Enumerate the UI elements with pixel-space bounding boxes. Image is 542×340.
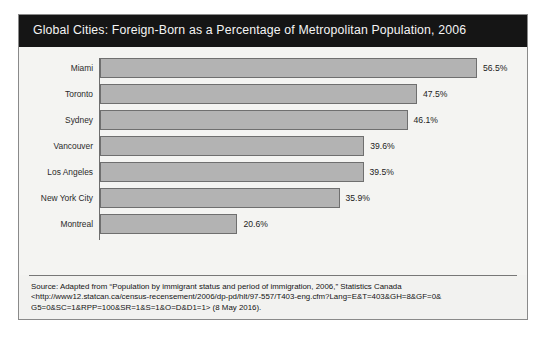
bar-value-label: 35.9% (346, 188, 370, 208)
bar-row: Toronto47.5% (100, 84, 517, 104)
bar-row: Vancouver39.6% (100, 136, 517, 156)
bar (100, 58, 477, 78)
bar (100, 214, 237, 234)
chart-area: Miami56.5%Toronto47.5%Sydney46.1%Vancouv… (19, 47, 527, 276)
bar (100, 188, 340, 208)
bar-value-label: 39.5% (370, 162, 394, 182)
bar-row: Montreal20.6% (100, 214, 517, 234)
source-line-1: Source: Adapted from “Population by immi… (31, 282, 515, 292)
bar-row: Los Angeles39.5% (100, 162, 517, 182)
bar-category-label: Sydney (65, 110, 93, 130)
source-note: Source: Adapted from “Population by immi… (19, 276, 527, 319)
bar-category-label: New York City (41, 188, 93, 208)
figure-panel: Global Cities: Foreign-Born as a Percent… (18, 14, 528, 320)
bar-value-label: 46.1% (414, 110, 438, 130)
bar-value-label: 47.5% (423, 84, 447, 104)
source-line-2: <http://www12.statcan.ca/census-recensem… (31, 292, 515, 302)
source-line-3: G5=0&SC=1&RPP=100&SR=1&S=1&O=D&D1=1> (8 … (31, 303, 515, 313)
bar-row: New York City35.9% (100, 188, 517, 208)
bar-category-label: Montreal (60, 214, 93, 234)
bar (100, 84, 417, 104)
bar-category-label: Vancouver (54, 136, 93, 156)
bar-row: Sydney46.1% (100, 110, 517, 130)
figure-title: Global Cities: Foreign-Born as a Percent… (33, 22, 513, 39)
bar-chart-plot: Miami56.5%Toronto47.5%Sydney46.1%Vancouv… (99, 58, 517, 240)
bar-value-label: 20.6% (243, 214, 267, 234)
bar (100, 136, 364, 156)
bar-category-label: Miami (71, 58, 93, 78)
bar (100, 110, 408, 130)
bar (100, 162, 364, 182)
bar-value-label: 39.6% (370, 136, 394, 156)
bar-row: Miami56.5% (100, 58, 517, 78)
figure-header: Global Cities: Foreign-Born as a Percent… (19, 15, 527, 47)
bar-value-label: 56.5% (483, 58, 507, 78)
bar-category-label: Toronto (65, 84, 93, 104)
bar-category-label: Los Angeles (47, 162, 93, 182)
